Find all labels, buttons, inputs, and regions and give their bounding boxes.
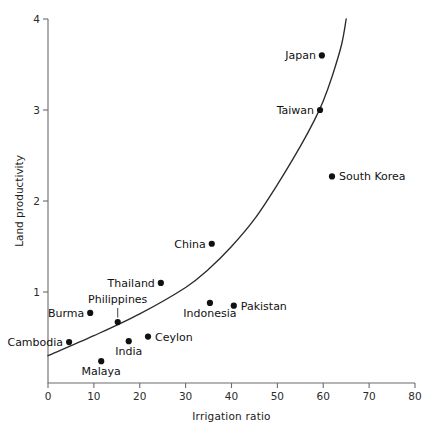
data-point [87,310,93,316]
data-point-label: Cambodia [7,337,63,348]
x-tick-label: 40 [225,391,238,402]
data-point [209,241,215,247]
data-point-label: India [115,346,142,357]
data-point-label: Taiwan [277,105,314,116]
x-axis-title: Irrigation ratio [192,411,270,422]
axis-lines [48,19,415,383]
x-tick-label: 30 [179,391,192,402]
axes [48,19,415,383]
x-tick-label: 60 [317,391,330,402]
x-axis-ticks [48,383,415,388]
y-tick-label: 2 [33,196,40,207]
data-point-label: Thailand [108,277,155,288]
scatter-plot-figure: 010203040506070801234 CambodiaBurmaMalay… [0,0,433,441]
data-point-label: Japan [285,50,316,61]
data-point-label: Malaya [82,366,121,377]
plot-canvas [0,0,433,441]
data-point [158,280,164,286]
y-tick-label: 3 [33,105,40,116]
data-point [98,358,104,364]
data-point [115,319,121,325]
x-tick-label: 50 [271,391,284,402]
data-point [126,338,132,344]
data-point [66,339,72,345]
y-tick-label: 1 [33,287,40,298]
y-axis-ticks [43,19,48,292]
data-point-label: Philippines [88,294,147,305]
y-tick-label: 4 [33,14,40,25]
data-point [207,300,213,306]
data-point-label: Pakistan [241,300,287,311]
data-point [329,173,335,179]
data-point-label: South Korea [339,171,406,182]
data-point-label: Ceylon [155,331,193,342]
data-point [317,107,323,113]
data-point-label: China [174,238,205,249]
x-tick-label: 80 [408,391,421,402]
x-tick-label: 70 [362,391,375,402]
x-tick-label: 20 [133,391,146,402]
x-tick-label: 10 [87,391,100,402]
data-point-label: Indonesia [183,308,236,319]
data-point-label: Burma [48,307,84,318]
data-point [319,52,325,58]
data-point [145,333,151,339]
x-tick-label: 0 [45,391,52,402]
y-axis-title: Land productivity [14,155,25,247]
